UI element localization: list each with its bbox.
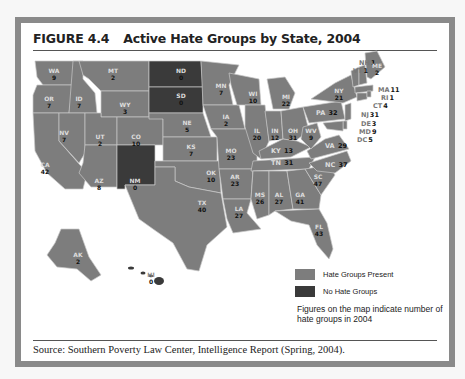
label-MT: MT2	[108, 67, 118, 81]
label-NE: NE5	[182, 119, 191, 133]
label-AK: AK2	[73, 251, 82, 265]
label-ID: ID7	[75, 95, 82, 109]
label-DE: DE3	[361, 120, 376, 128]
label-CA: CA42	[40, 161, 49, 175]
label-MI: MI22	[282, 93, 290, 107]
state-RI	[367, 91, 371, 97]
label-VA: VA 29	[325, 142, 347, 150]
state-FL	[275, 209, 333, 259]
label-SD: SD0	[176, 92, 185, 106]
legend-label-none: No Hate Groups	[323, 287, 377, 296]
label-NM: NM0	[130, 177, 141, 191]
label-TN: TN 31	[271, 159, 293, 167]
label-FL: FL43	[315, 223, 323, 237]
label-OR: OR7	[44, 95, 54, 109]
label-MD: MD9	[359, 128, 376, 136]
label-AR: AR23	[230, 173, 239, 187]
label-MN: MN7	[216, 82, 227, 96]
label-IA: IA2	[223, 113, 230, 127]
legend-item-present: Hate Groups Present	[295, 267, 393, 282]
label-IL: IL20	[253, 127, 261, 141]
state-HI	[128, 267, 164, 286]
label-MO: MO23	[225, 147, 236, 161]
state-MD	[323, 121, 343, 131]
state-NJ	[345, 103, 351, 121]
label-WI: WI10	[249, 90, 258, 104]
label-ND: ND0	[176, 67, 186, 81]
label-IN: IN12	[271, 127, 279, 141]
label-HI: HI0	[147, 271, 154, 285]
label-KS: KS7	[187, 143, 196, 157]
label-CT: CT4	[373, 102, 388, 110]
label-TX: TX40	[198, 199, 207, 213]
label-VT: VT1	[353, 67, 368, 75]
figure-frame: FIGURE 4.4Active Hate Groups by State, 2…	[15, 17, 455, 367]
legend: Hate Groups Present No Hate Groups	[295, 267, 393, 301]
label-NJ: NJ31	[361, 111, 379, 119]
label-AZ: AZ8	[95, 177, 104, 191]
label-SC: SC47	[314, 173, 323, 187]
state-CT	[357, 93, 367, 101]
label-MA: MA11	[378, 86, 400, 94]
label-WA: WA9	[49, 67, 60, 81]
label-MS: MS26	[255, 191, 265, 205]
label-LA: LA27	[235, 205, 243, 219]
map-note: Figures on the map indicate number of ha…	[297, 304, 447, 324]
label-NC: NC 37	[325, 161, 348, 169]
label-WV: WV9	[305, 127, 316, 141]
state-DE	[343, 121, 347, 129]
label-ME: ME2	[372, 62, 382, 76]
label-RI: RI1	[381, 94, 394, 102]
legend-swatch-present	[295, 269, 315, 280]
label-KY: KY 13	[271, 147, 293, 155]
label-OH: OH31	[288, 127, 298, 141]
source-citation: Source: Southern Poverty Law Center, Int…	[33, 344, 345, 355]
label-CO: CO10	[131, 133, 141, 147]
legend-label-present: Hate Groups Present	[323, 270, 393, 279]
label-UT: UT2	[96, 133, 105, 147]
label-OK: OK10	[206, 169, 216, 183]
legend-swatch-none	[295, 286, 315, 297]
label-DC: DC5	[357, 136, 373, 144]
label-NY: NY21	[334, 87, 343, 101]
label-WY: WY3	[120, 101, 131, 115]
label-AL: AL27	[275, 191, 283, 205]
label-NV: NV7	[59, 129, 69, 143]
source-divider	[33, 340, 437, 341]
legend-item-none: No Hate Groups	[295, 284, 393, 299]
label-GA: GA41	[295, 191, 305, 205]
label-PA: PA 32	[316, 109, 338, 117]
